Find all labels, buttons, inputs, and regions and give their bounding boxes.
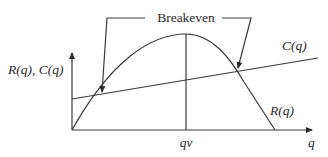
breakeven-label: Breakeven xyxy=(157,10,215,25)
breakeven-leader-right xyxy=(222,18,251,68)
y-axis-label: R(q), C(q) xyxy=(7,62,64,77)
breakeven-diagram: Breakeven R(q), C(q) C(q) R(q) qv q xyxy=(0,0,328,157)
cost-curve-label: C(q) xyxy=(282,38,307,53)
peak-tick-label: qv xyxy=(180,135,193,150)
cost-line xyxy=(72,58,318,99)
revenue-curve-label: R(q) xyxy=(269,103,294,118)
x-axis-label: q xyxy=(308,135,315,150)
breakeven-leader-left xyxy=(102,18,145,92)
